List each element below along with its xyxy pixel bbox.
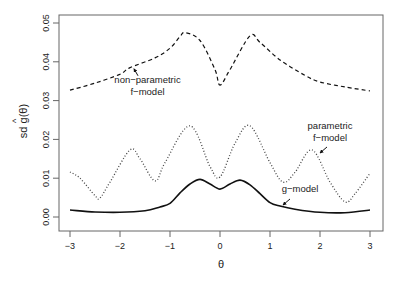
chart: 0.000.010.020.030.040.05 −3−2−10123 non−… (0, 0, 403, 282)
annotations: non−parametricf−modelparametricf−modelg−… (114, 69, 352, 205)
x-tick-label: −1 (165, 241, 175, 251)
x-axis-label: θ (218, 258, 224, 270)
x-tick-label: 2 (317, 241, 322, 251)
y-tick-label: 0.00 (41, 208, 51, 226)
arrow-icon (320, 147, 327, 153)
x-tick-label: 0 (217, 241, 222, 251)
y-tick-label: 0.01 (41, 169, 51, 187)
annotation-label: f−model (313, 132, 347, 143)
series-g-model (70, 179, 370, 213)
x-axis: −3−2−10123 (65, 231, 373, 251)
y-tick-label: 0.02 (41, 131, 51, 149)
y-axis-label: sd g(θ) ^ (11, 104, 29, 138)
arrow-icon (283, 199, 290, 205)
annotation-label: g−model (282, 183, 319, 194)
x-tick-label: −2 (115, 241, 125, 251)
y-tick-label: 0.03 (41, 92, 51, 110)
annotation-label: f−model (130, 86, 164, 97)
x-tick-label: −3 (65, 241, 75, 251)
annotation-label: parametric (308, 120, 353, 131)
x-tick-label: 1 (267, 241, 272, 251)
y-label-prefix: sd (17, 123, 29, 138)
y-label-suffix: (θ) (17, 104, 29, 117)
y-tick-label: 0.05 (41, 14, 51, 32)
y-axis: 0.000.010.020.030.040.05 (41, 14, 59, 226)
x-tick-label: 3 (367, 241, 372, 251)
y-tick-label: 0.04 (41, 53, 51, 71)
annotation-label: non−parametric (114, 74, 181, 85)
